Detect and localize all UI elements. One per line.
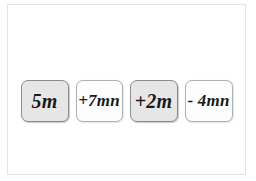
algebra-tile-2-label: +7mn xyxy=(78,92,120,109)
algebra-tile-4[interactable]: - 4mn xyxy=(185,80,233,122)
algebra-tile-1-label: 5m xyxy=(32,91,58,111)
algebra-tile-2[interactable]: +7mn xyxy=(76,80,123,122)
algebra-tile-row: 5m +7mn +2m - 4mn xyxy=(8,5,245,174)
algebra-tile-3[interactable]: +2m xyxy=(130,80,178,122)
canvas-frame: 5m +7mn +2m - 4mn xyxy=(7,4,246,175)
algebra-tile-1[interactable]: 5m xyxy=(21,80,69,122)
algebra-tile-4-label: - 4mn xyxy=(187,92,229,109)
algebra-tile-3-label: +2m xyxy=(135,91,173,111)
page-root: 5m +7mn +2m - 4mn xyxy=(0,0,256,181)
